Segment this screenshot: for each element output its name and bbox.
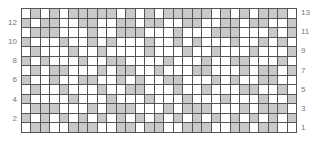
chart-cell xyxy=(145,104,153,113)
chart-cell xyxy=(193,85,201,94)
chart-cell xyxy=(288,123,296,132)
chart-cell xyxy=(88,9,96,18)
colorwork-chart-grid xyxy=(21,8,297,133)
chart-cell xyxy=(231,9,239,18)
chart-cell xyxy=(164,104,172,113)
chart-cell xyxy=(183,38,191,47)
chart-cell xyxy=(183,66,191,75)
chart-cell xyxy=(117,76,125,85)
chart-cell xyxy=(41,76,49,85)
chart-cell xyxy=(202,47,210,56)
chart-cell xyxy=(145,19,153,28)
chart-cell xyxy=(88,19,96,28)
chart-cell xyxy=(250,38,258,47)
chart-cell xyxy=(79,47,87,56)
chart-cell xyxy=(107,38,115,47)
chart-cell xyxy=(174,57,182,66)
chart-cell xyxy=(231,76,239,85)
chart-cell xyxy=(164,66,172,75)
chart-cell xyxy=(117,123,125,132)
chart-cell xyxy=(278,76,286,85)
chart-cell xyxy=(174,47,182,56)
chart-cell xyxy=(212,85,220,94)
chart-cell xyxy=(31,104,39,113)
chart-cell xyxy=(288,85,296,94)
chart-cell xyxy=(98,28,106,37)
chart-cell xyxy=(278,104,286,113)
chart-cell xyxy=(183,28,191,37)
chart-cell xyxy=(107,95,115,104)
chart-cell xyxy=(41,9,49,18)
chart-cell xyxy=(174,28,182,37)
chart-cell xyxy=(259,47,267,56)
row-label: 8 xyxy=(0,56,17,66)
chart-cell xyxy=(193,76,201,85)
chart-cell xyxy=(164,9,172,18)
chart-cell xyxy=(183,57,191,66)
chart-cell xyxy=(60,57,68,66)
chart-cell xyxy=(278,28,286,37)
chart-cell xyxy=(221,19,229,28)
chart-cell xyxy=(240,85,248,94)
chart-cell xyxy=(240,114,248,123)
chart-cell xyxy=(50,38,58,47)
chart-cell xyxy=(60,66,68,75)
chart-cell xyxy=(155,66,163,75)
chart-cell xyxy=(231,57,239,66)
chart-cell xyxy=(22,19,30,28)
chart-cell xyxy=(41,85,49,94)
chart-cell xyxy=(41,114,49,123)
chart-cell xyxy=(117,95,125,104)
chart-cell xyxy=(174,123,182,132)
row-label: 12 xyxy=(0,18,17,28)
chart-cell xyxy=(126,38,134,47)
chart-cell xyxy=(221,38,229,47)
chart-cell xyxy=(193,95,201,104)
chart-cell xyxy=(98,95,106,104)
chart-cell xyxy=(145,66,153,75)
chart-cell xyxy=(117,38,125,47)
chart-cell xyxy=(193,57,201,66)
chart-cell xyxy=(164,76,172,85)
chart-cell xyxy=(164,95,172,104)
chart-cell xyxy=(50,66,58,75)
chart-cell xyxy=(22,123,30,132)
chart-cell xyxy=(60,38,68,47)
chart-cell xyxy=(60,123,68,132)
chart-cell xyxy=(212,66,220,75)
chart-cell xyxy=(250,19,258,28)
chart-cell xyxy=(231,104,239,113)
chart-cell xyxy=(145,85,153,94)
row-label: 2 xyxy=(0,114,17,124)
chart-cell xyxy=(31,123,39,132)
chart-cell xyxy=(288,104,296,113)
chart-cell xyxy=(50,9,58,18)
chart-cell xyxy=(155,38,163,47)
chart-cell xyxy=(69,76,77,85)
chart-cell xyxy=(155,47,163,56)
chart-cell xyxy=(60,114,68,123)
chart-cell xyxy=(259,57,267,66)
chart-cell xyxy=(221,9,229,18)
chart-cell xyxy=(221,123,229,132)
chart-cell xyxy=(107,47,115,56)
chart-cell xyxy=(278,95,286,104)
chart-cell xyxy=(155,104,163,113)
chart-cell xyxy=(136,66,144,75)
chart-cell xyxy=(155,95,163,104)
chart-cell xyxy=(69,19,77,28)
chart-cell xyxy=(155,114,163,123)
chart-cell xyxy=(60,47,68,56)
chart-cell xyxy=(107,104,115,113)
chart-cell xyxy=(164,57,172,66)
chart-cell xyxy=(278,66,286,75)
chart-cell xyxy=(250,104,258,113)
chart-cell xyxy=(174,38,182,47)
chart-cell xyxy=(88,114,96,123)
chart-cell xyxy=(155,9,163,18)
chart-cell xyxy=(79,9,87,18)
chart-cell xyxy=(202,76,210,85)
chart-cell xyxy=(79,38,87,47)
chart-cell xyxy=(88,123,96,132)
chart-cell xyxy=(107,85,115,94)
